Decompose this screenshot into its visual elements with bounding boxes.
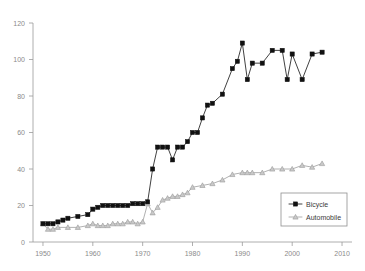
bicycle-data-point [106,203,110,207]
automobile-data-point [300,163,305,168]
legend-label-automobile: Automobile [306,214,341,221]
bicycle-data-point [61,218,65,222]
y-tick-label: 80 [17,93,25,100]
bicycle-data-point [285,77,289,81]
automobile-data-point [90,221,95,226]
legend-marker-bicycle [293,202,297,206]
y-tick-label: 0 [21,239,25,246]
x-tick-label: 2010 [334,250,350,257]
bicycle-data-point [220,92,224,96]
bicycle-data-point [86,213,90,217]
bicycle-data-point [290,52,294,56]
x-tick-label: 2000 [284,250,300,257]
chart-legend[interactable]: BicycleAutomobile [281,193,347,226]
bicycle-data-point [146,200,150,204]
x-axis-ticks: 1950196019701980199020002010 [35,242,350,257]
bicycle-data-point [300,77,304,81]
legend-border [281,193,347,226]
automobile-data-point [220,177,225,182]
bicycle-data-point [240,41,244,45]
y-tick-label: 60 [17,129,25,136]
bicycle-data-point [121,203,125,207]
bicycle-data-point [235,59,239,63]
y-tick-label: 120 [13,20,25,27]
bicycle-data-point [230,67,234,71]
bicycle-data-point [190,130,194,134]
bicycle-data-point [96,205,100,209]
bicycle-data-point [270,48,274,52]
bicycle-data-point [210,101,214,105]
bicycle-data-point [156,145,160,149]
bicycle-data-point [51,222,55,226]
bicycle-data-point [41,222,45,226]
bicycle-data-point [76,214,80,218]
bicycle-data-point [66,216,70,220]
automobile-data-point [140,219,145,224]
bicycle-data-point [136,202,140,206]
bicycle-data-point [131,202,135,206]
y-axis-ticks: 020406080100120 [13,20,33,246]
bicycle-data-point [165,145,169,149]
x-tick-label: 1950 [35,250,51,257]
legend-label-bicycle: Bicycle [306,201,328,209]
x-tick-label: 1970 [135,250,151,257]
bicycle-data-point [160,145,164,149]
bicycle-data-point [56,220,60,224]
bicycle-data-point [170,158,174,162]
chart-container: 020406080100120 195019601970198019902000… [0,0,365,271]
bicycle-data-point [141,202,145,206]
y-tick-label: 40 [17,166,25,173]
bicycle-data-point [91,207,95,211]
bicycle-data-point [250,61,254,65]
bicycle-data-point [245,77,249,81]
x-tick-label: 1990 [235,250,251,257]
bicycle-data-point [116,203,120,207]
bicycle-data-point [205,103,209,107]
bicycle-data-point [310,52,314,56]
bicycle-data-point [260,61,264,65]
x-tick-label: 1960 [85,250,101,257]
bicycle-data-point [185,140,189,144]
automobile-data-point [319,161,324,166]
bicycle-data-point [175,145,179,149]
bicycle-data-point [280,48,284,52]
y-tick-label: 20 [17,202,25,209]
bicycle-data-point [180,145,184,149]
bicycle-data-point [111,203,115,207]
y-tick-label: 100 [13,56,25,63]
x-tick-label: 1980 [185,250,201,257]
bicycle-data-point [126,203,130,207]
bicycle-data-point [320,50,324,54]
bicycle-data-point [200,116,204,120]
bicycle-data-point [46,222,50,226]
bicycle-data-point [195,130,199,134]
line-chart: 020406080100120 195019601970198019902000… [0,0,365,271]
bicycle-data-point [151,167,155,171]
bicycle-data-point [101,203,105,207]
